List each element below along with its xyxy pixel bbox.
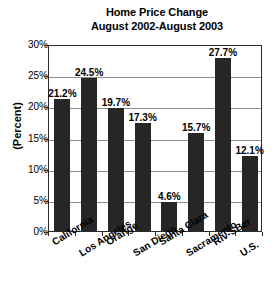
bar-value-label: 24.5% [66,67,112,78]
bar-value-label: 19.7% [93,97,139,108]
bar [135,123,151,231]
bar [108,108,124,231]
y-axis-tick-label: 15% [4,134,48,144]
x-axis-category-labels: CaliforniaLos AngelesOrangeSan DiegoSant… [0,232,279,306]
x-axis-category-label: U.S. [238,239,260,259]
bar-value-label: 15.7% [173,122,219,133]
bar-value-label: 4.6% [146,191,192,202]
plot-area: 21.2%24.5%19.7%17.3%4.6%15.7%27.7%12.1% [48,45,262,232]
bar-value-label: 21.2% [39,88,85,99]
chart-title-line-2: August 2002-August 2003 [46,19,268,33]
chart-title-line-1: Home Price Change [46,5,268,19]
chart-title: Home Price Change August 2002-August 200… [46,5,268,33]
chart-figure: Home Price Change August 2002-August 200… [0,0,279,306]
bar-value-label: 12.1% [227,145,273,156]
y-axis-tick-label: 30% [4,40,48,50]
y-axis-tick-label: 10% [4,165,48,175]
bar-value-label: 27.7% [200,47,246,58]
bar [54,99,70,231]
y-axis-tick-label: 20% [4,102,48,112]
y-axis-tick-label: 5% [4,196,48,206]
bar-value-label: 17.3% [120,112,166,123]
y-axis-tick-label: 25% [4,71,48,81]
